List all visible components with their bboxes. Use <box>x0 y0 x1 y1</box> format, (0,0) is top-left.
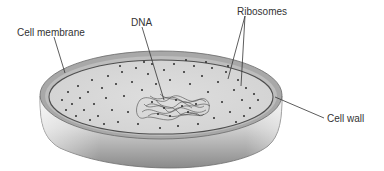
label-dna: DNA <box>131 18 152 28</box>
cytoplasm <box>49 60 273 134</box>
label-cell-membrane: Cell membrane <box>17 28 85 38</box>
prokaryotic-cell-diagram: Cell membrane DNA Ribosomes Cell wall <box>0 0 384 171</box>
label-cell-wall: Cell wall <box>327 114 364 124</box>
label-ribosomes: Ribosomes <box>237 7 287 17</box>
cell-illustration <box>0 0 384 171</box>
leader-cell-wall <box>275 97 324 118</box>
leader-cell-membrane <box>54 37 65 73</box>
